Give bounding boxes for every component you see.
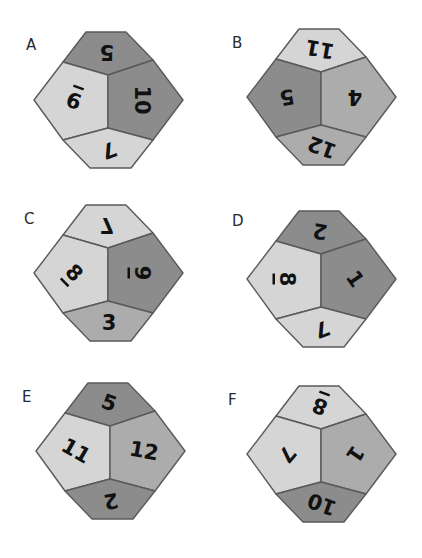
die-b: 115412	[247, 29, 397, 167]
die-label-d: D	[232, 212, 244, 230]
face-number: 3	[102, 311, 117, 335]
dice-puzzle: A59107B115412C7893D2817E511122F87110	[0, 0, 422, 558]
die-face-right: 12	[110, 411, 185, 491]
die-f: 87110	[247, 386, 397, 524]
orientation-underline	[273, 274, 276, 285]
face-number: 5	[100, 40, 115, 64]
die-face-right: 4	[321, 57, 396, 137]
die-face-right: 10	[108, 60, 183, 140]
die-face-left: 9	[34, 62, 108, 140]
die-d: 2817	[247, 211, 397, 349]
face-number: 4	[348, 85, 363, 109]
die-face-right: 1	[321, 414, 396, 494]
die-a: 59107	[34, 32, 184, 170]
die-label-c: C	[24, 210, 34, 228]
face-number: 9	[130, 266, 154, 281]
die-face-left: 8	[247, 241, 321, 319]
orientation-underline	[128, 268, 131, 279]
face-number: 10	[130, 85, 154, 114]
die-label-b: B	[232, 34, 242, 52]
face-number: 7	[100, 213, 115, 237]
die-label-e: E	[22, 388, 31, 406]
die-label-f: F	[228, 391, 237, 409]
die-face-left: 5	[247, 59, 321, 137]
die-face-left: 8	[34, 235, 108, 313]
die-face-right: 1	[321, 239, 396, 319]
face-number: 12	[128, 437, 161, 466]
face-number: 8	[275, 272, 299, 287]
die-face-right: 9	[108, 233, 183, 313]
die-face-left: 7	[247, 416, 321, 494]
die-face-left: 11	[36, 413, 110, 491]
face-number: 11	[304, 35, 337, 64]
die-e: 511122	[36, 383, 186, 521]
die-c: 7893	[34, 205, 184, 343]
